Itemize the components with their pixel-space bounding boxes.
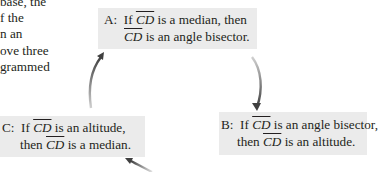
arrow-a-to-b: [252, 57, 261, 111]
statement-label: B:: [221, 117, 233, 132]
segment-cd: CD: [136, 12, 154, 27]
statement-a-line-1: A: If CD is a median, then: [104, 12, 247, 28]
statement-label: A:: [104, 12, 117, 27]
statement-a-line-2: CD is an angle bisector.: [124, 29, 250, 45]
statement-b-line-1: B: If CD is an angle bisector,: [221, 117, 378, 133]
statement-c-line-2: then CD is a median.: [20, 137, 131, 153]
segment-cd: CD: [33, 120, 51, 135]
statement-c-line-1: C: If CD is an altitude,: [2, 120, 125, 136]
statement-b-line-2: then CD is an altitude.: [237, 134, 355, 150]
statement-label: C:: [2, 120, 14, 135]
statement-box-a: A: If CD is a median, then CD is an angl…: [98, 8, 257, 49]
segment-cd: CD: [124, 29, 142, 44]
segment-cd: CD: [46, 137, 64, 152]
statement-box-b: B: If CD is an angle bisector, then CD i…: [219, 112, 367, 155]
statement-box-c: C: If CD is an altitude, then CD is a me…: [0, 116, 145, 157]
arrow-c-to-a: [90, 52, 104, 108]
arrow-b-to-c: [125, 158, 152, 172]
segment-cd: CD: [263, 134, 281, 149]
segment-cd: CD: [252, 117, 270, 132]
